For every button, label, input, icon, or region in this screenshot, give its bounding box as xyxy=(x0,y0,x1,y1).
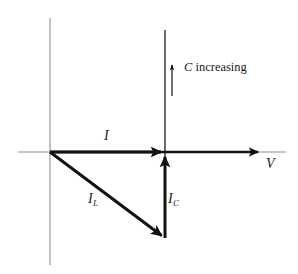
label-current-I-symbol: I xyxy=(104,128,109,143)
annotation-c-increasing-text: increasing xyxy=(192,60,247,74)
label-current-IL-subscript: L xyxy=(93,198,98,208)
label-current-I: I xyxy=(104,129,109,143)
label-current-IC: IC xyxy=(168,192,179,206)
phasor-diagram-canvas xyxy=(0,0,298,274)
phasor-diagram-figure: I V IL IC C increasing xyxy=(0,0,298,274)
current-vector-IL xyxy=(50,152,162,236)
label-voltage-V: V xyxy=(266,157,275,171)
label-current-IC-subscript: C xyxy=(173,198,179,208)
annotation-c-increasing: C increasing xyxy=(184,61,247,74)
label-voltage-V-symbol: V xyxy=(266,156,275,171)
label-current-IC-symbol: I xyxy=(168,191,173,206)
label-current-IL: IL xyxy=(88,192,98,206)
label-current-IL-symbol: I xyxy=(88,191,93,206)
